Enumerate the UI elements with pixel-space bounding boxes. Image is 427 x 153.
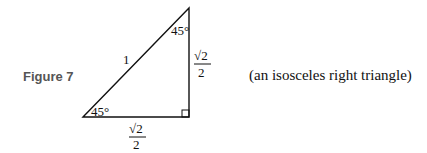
right-side-denominator: 2 [198, 65, 205, 80]
hypotenuse-label: 1 [123, 52, 130, 67]
top-angle-label: 45° [171, 23, 189, 38]
bottom-side-denominator: 2 [133, 137, 140, 152]
bottom-side-numerator: √2 [129, 121, 143, 136]
bottom-left-angle-label: 45° [91, 104, 109, 119]
figure-caption: (an isosceles right triangle) [249, 67, 412, 84]
right-side-numerator: √2 [194, 48, 208, 63]
right-angle-marker [182, 110, 189, 117]
right-side-fraction: √2 2 [194, 48, 211, 80]
bottom-side-fraction: √2 2 [129, 121, 146, 152]
